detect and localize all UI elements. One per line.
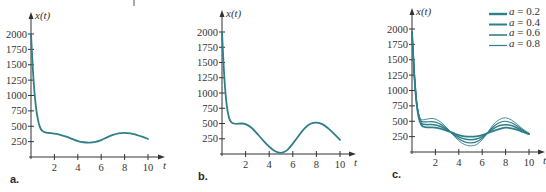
series-line	[31, 34, 148, 143]
x-tick-label: 2	[52, 162, 57, 173]
y-tick-label: 1000	[387, 85, 408, 96]
y-tick-label: 2000	[197, 27, 218, 38]
x-tick-label: 4	[456, 157, 462, 168]
y-tick-label: 1250	[197, 72, 218, 83]
y-tick-label: 750	[392, 100, 408, 111]
series-line	[222, 32, 340, 153]
y-axis-arrow-icon	[220, 10, 225, 17]
y-axis-arrow-icon	[29, 12, 34, 19]
x-tick-label: 2	[243, 159, 248, 170]
y-tick-label: 750	[11, 105, 27, 116]
panel-label: a.	[10, 173, 19, 185]
y-tick-label: 1500	[6, 59, 27, 70]
y-axis-label: x(t)	[415, 5, 432, 18]
y-tick-label: 1250	[387, 70, 408, 81]
y-tick-label: 1500	[197, 57, 218, 68]
x-tick-label: 10	[143, 162, 154, 173]
y-tick-label: 250	[11, 136, 27, 147]
x-tick-label: 8	[503, 157, 508, 168]
x-tick-label: 10	[335, 159, 346, 170]
y-tick-label: 1500	[387, 54, 408, 65]
x-tick-label: 10	[524, 157, 535, 168]
x-tick-label: 2	[433, 157, 438, 168]
y-tick-label: 500	[392, 116, 408, 127]
x-tick-label: 4	[267, 159, 273, 170]
x-tick-label: 6	[99, 162, 104, 173]
y-tick-label: 1000	[197, 88, 218, 99]
y-tick-label: 2000	[6, 29, 27, 40]
y-tick-label: 250	[202, 133, 218, 144]
x-tick-label: 8	[314, 159, 319, 170]
y-tick-label: 1750	[6, 44, 27, 55]
x-axis-label: t	[354, 156, 358, 168]
y-tick-label: 750	[202, 103, 218, 114]
y-tick-label: 2000	[387, 24, 408, 35]
y-tick-label: 1000	[6, 90, 27, 101]
panel-label: b.	[198, 170, 208, 182]
y-tick-label: 1750	[387, 39, 408, 50]
chart-panel-a: 25050075010001250150017502000246810x(t)t…	[6, 9, 167, 185]
x-tick-label: 6	[480, 157, 485, 168]
y-axis-label: x(t)	[225, 7, 242, 20]
y-tick-label: 1750	[197, 42, 218, 53]
x-tick-label: 8	[122, 162, 127, 173]
legend: a = 0.2a = 0.4a = 0.6a = 0.8	[489, 5, 540, 49]
panel-label: c.	[392, 168, 401, 180]
y-tick-label: 500	[202, 118, 218, 129]
chart-panel-b: 25050075010001250150017502000246810x(t)t…	[197, 7, 358, 182]
x-axis-label: t	[163, 159, 167, 171]
x-tick-label: 4	[75, 162, 81, 173]
y-axis-arrow-icon	[410, 8, 415, 15]
chart-figure: 25050075010001250150017502000246810x(t)t…	[0, 0, 546, 192]
y-tick-label: 500	[11, 121, 27, 132]
x-tick-label: 6	[290, 159, 295, 170]
y-axis-label: x(t)	[34, 9, 51, 22]
y-tick-label: 250	[392, 131, 408, 142]
legend-label: a = 0.8	[509, 37, 540, 49]
y-tick-label: 1250	[6, 75, 27, 86]
